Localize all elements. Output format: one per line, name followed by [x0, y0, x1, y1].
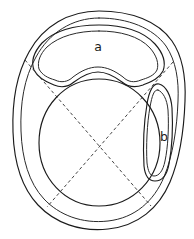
dashed-diagonal-axis-ne-sw [47, 62, 173, 207]
figure-container: a b [0, 0, 194, 239]
region-a-outline [33, 25, 164, 87]
region-a-label: a [94, 39, 102, 54]
cross-section-diagram: a b [0, 0, 194, 239]
region-b-label: b [160, 129, 168, 144]
